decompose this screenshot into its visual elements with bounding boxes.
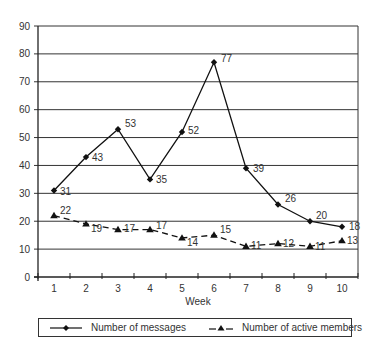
data-label: 39 xyxy=(253,163,265,174)
data-label: 43 xyxy=(92,152,104,163)
y-tick-label: 50 xyxy=(19,132,31,143)
x-tick-label: 4 xyxy=(147,283,153,294)
x-tick-label: 1 xyxy=(51,283,57,294)
legend-label-active-members: Number of active members xyxy=(242,322,362,333)
x-tick-label: 5 xyxy=(179,283,185,294)
diamond-marker xyxy=(211,59,217,65)
y-tick-label: 40 xyxy=(19,160,31,171)
data-label: 17 xyxy=(156,220,168,231)
triangle-marker xyxy=(210,231,218,237)
line-chart: 0102030405060708090 12345678910 31435335… xyxy=(0,0,376,318)
y-tick-label: 30 xyxy=(19,188,31,199)
data-label: 11 xyxy=(251,240,262,251)
data-label: 19 xyxy=(91,223,103,234)
data-label: 18 xyxy=(349,221,361,232)
series-active-members: 22191717141511121113 xyxy=(50,205,358,253)
data-label: 14 xyxy=(187,237,199,248)
data-label: 17 xyxy=(124,223,136,234)
diamond-marker xyxy=(339,224,345,230)
triangle-marker xyxy=(50,212,58,218)
y-tick-label: 0 xyxy=(24,272,30,283)
y-tick-label: 90 xyxy=(19,21,31,32)
data-label: 13 xyxy=(347,235,359,246)
y-axis-ticks: 0102030405060708090 xyxy=(19,21,38,283)
triangle-marker xyxy=(338,237,346,243)
series-group: 3143533552773926201822191717141511121113 xyxy=(50,53,360,252)
gridlines xyxy=(38,26,358,249)
y-tick-label: 80 xyxy=(19,48,31,59)
data-label: 12 xyxy=(283,238,295,249)
y-tick-label: 20 xyxy=(19,216,31,227)
data-label: 20 xyxy=(316,210,328,221)
legend-label-messages: Number of messages xyxy=(91,322,186,333)
triangle-marker xyxy=(274,240,282,246)
legend-item-messages: Number of messages xyxy=(49,322,186,333)
series-messages: 31435335527739262018 xyxy=(51,53,361,232)
x-tick-label: 7 xyxy=(243,283,249,294)
data-label: 53 xyxy=(125,118,137,129)
data-label: 77 xyxy=(221,53,233,64)
x-axis-title: Week xyxy=(185,296,211,307)
x-tick-label: 8 xyxy=(275,283,281,294)
data-label: 31 xyxy=(60,186,72,197)
x-tick-label: 3 xyxy=(115,283,121,294)
x-tick-label: 6 xyxy=(211,283,217,294)
x-tick-label: 10 xyxy=(336,283,348,294)
legend-item-active-members: Number of active members xyxy=(208,322,362,333)
y-tick-label: 10 xyxy=(19,244,31,255)
solid-diamond-line-icon xyxy=(49,324,83,332)
dashed-triangle-line-icon xyxy=(208,324,234,332)
x-tick-label: 2 xyxy=(83,283,89,294)
x-axis-ticks: 12345678910 xyxy=(38,273,358,294)
data-label: 52 xyxy=(188,125,200,136)
data-label: 26 xyxy=(285,193,297,204)
data-label: 11 xyxy=(315,241,326,252)
diamond-marker xyxy=(307,218,313,224)
data-label: 35 xyxy=(156,174,168,185)
y-tick-label: 60 xyxy=(19,104,31,115)
x-tick-label: 9 xyxy=(307,283,313,294)
legend: Number of messages Number of active memb… xyxy=(38,318,352,337)
data-label: 15 xyxy=(220,224,232,235)
data-label: 22 xyxy=(60,205,72,216)
y-tick-label: 70 xyxy=(19,76,31,87)
